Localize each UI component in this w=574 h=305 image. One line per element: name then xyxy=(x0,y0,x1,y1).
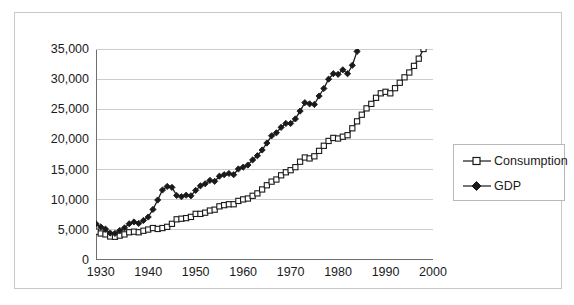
x-axis-tick-label: 2000 xyxy=(403,266,463,279)
legend-item-consumption: Consumption xyxy=(454,149,566,173)
plot-svg xyxy=(96,49,433,260)
y-axis-tick-label: 15,000 xyxy=(27,164,89,177)
y-axis-tick-label: 30,000 xyxy=(27,73,89,86)
y-axis-tick-label: 10,000 xyxy=(27,194,89,207)
chart-legend: Consumption GDP xyxy=(453,144,565,201)
plot-area xyxy=(96,49,433,260)
chart-screenshot: 35,00030,00025,00020,00015,00010,0005,00… xyxy=(0,0,574,305)
y-axis-tick-label: 25,000 xyxy=(27,103,89,116)
y-axis-tick-label: 0 xyxy=(27,254,89,267)
legend-label-consumption: Consumption xyxy=(494,155,568,168)
y-axis-tick-label: 35,000 xyxy=(27,43,89,56)
legend-label-gdp: GDP xyxy=(494,180,521,193)
legend-item-gdp: GDP xyxy=(454,174,566,198)
open-square-marker-icon xyxy=(462,153,492,169)
gridlines xyxy=(96,49,433,230)
y-axis-tick-label: 5,000 xyxy=(27,224,89,237)
chart-frame: 35,00030,00025,00020,00015,00010,0005,00… xyxy=(14,12,562,289)
filled-diamond-marker-icon xyxy=(462,178,492,194)
x-axis-tick-labels: 19301940195019601970198019902000 xyxy=(96,266,433,286)
y-axis-tick-label: 20,000 xyxy=(27,133,89,146)
series-gdp xyxy=(96,49,433,237)
y-axis-tick-labels: 35,00030,00025,00020,00015,00010,0005,00… xyxy=(23,49,89,260)
